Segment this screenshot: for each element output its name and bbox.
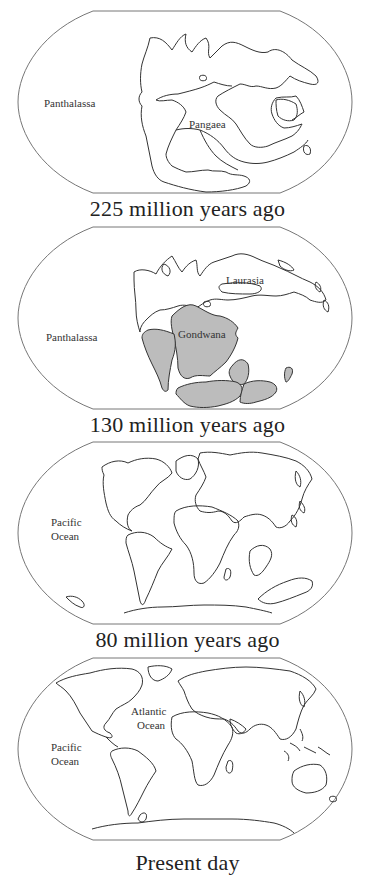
label-laurasia: Laurasia	[226, 274, 264, 286]
label-ocean: Ocean	[51, 530, 80, 542]
label-pacific: Pacific	[51, 516, 82, 528]
map-80-mya: Pacific Ocean	[0, 431, 375, 631]
panel-130-mya: Laurasia Gondwana Panthalassa 130 millio…	[0, 216, 375, 440]
label-gondwana: Gondwana	[178, 328, 226, 340]
panel-present-day: Atlantic Ocean Pacific Ocean Present day	[0, 647, 375, 892]
map-pangaea: Panthalassa Pangaea	[0, 0, 375, 200]
label-panthalassa: Panthalassa	[44, 97, 95, 109]
panel-80-mya: Pacific Ocean 80 million years ago	[0, 431, 375, 653]
caption-present-day: Present day	[0, 850, 375, 876]
label-atlantic: Atlantic	[131, 705, 167, 717]
label-panthalassa: Panthalassa	[46, 331, 97, 343]
panel-225-mya: Panthalassa Pangaea 225 million years ag…	[0, 0, 375, 222]
label-pangaea: Pangaea	[189, 118, 226, 130]
label-atlantic-ocean: Ocean	[137, 719, 166, 731]
map-laurasia-gondwana: Laurasia Gondwana Panthalassa	[0, 216, 375, 416]
label-pacific: Pacific	[51, 741, 82, 753]
label-pacific-ocean: Ocean	[51, 755, 80, 767]
map-present-day: Atlantic Ocean Pacific Ocean	[0, 647, 375, 847]
